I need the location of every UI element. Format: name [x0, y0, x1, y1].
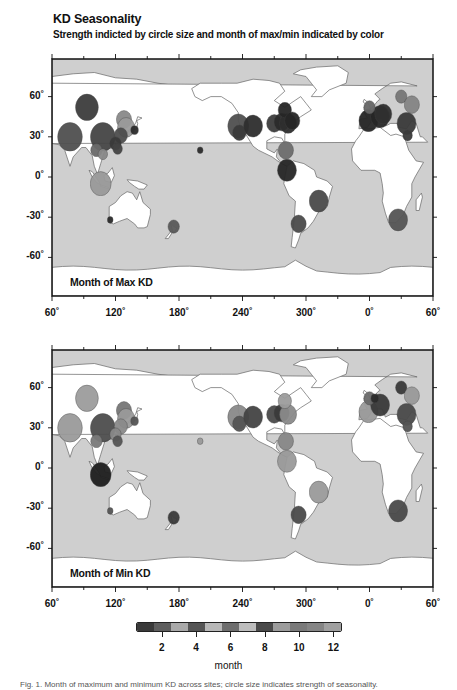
site-circle: [277, 450, 296, 472]
colorbar-tick-label: 4: [184, 642, 208, 653]
x-tick-label: 120˚: [96, 598, 136, 609]
colorbar-tick-label: 8: [253, 642, 277, 653]
colorbar-segment: [239, 623, 256, 631]
y-tick-label: -30˚: [14, 501, 44, 512]
figure-caption: Fig. 1. Month of maximum and minimum KD …: [20, 680, 378, 689]
colorbar-tick-label: 12: [321, 642, 345, 653]
y-tick-label: -60˚: [14, 541, 44, 552]
site-circle: [244, 406, 263, 428]
colorbar-segment: [273, 623, 290, 631]
y-tick-label: 60˚: [14, 381, 44, 392]
site-circle: [291, 506, 306, 524]
colorbar-segment: [307, 623, 324, 631]
site-circle: [404, 387, 419, 405]
colorbar-tick-label: 2: [150, 642, 174, 653]
colorbar-segment: [290, 623, 307, 631]
site-circle: [278, 432, 293, 450]
colorbar-tick-label: 10: [287, 642, 311, 653]
world-map: [0, 0, 457, 610]
site-circle: [309, 481, 328, 503]
colorbar-tick: [230, 632, 231, 637]
colorbar-tick-label: 6: [218, 642, 242, 653]
colorbar-segment: [188, 623, 205, 631]
x-tick-label: 180˚: [159, 598, 199, 609]
x-tick-label: 240˚: [223, 598, 263, 609]
x-tick-label: 300˚: [286, 598, 326, 609]
site-circle: [131, 417, 139, 426]
site-circle: [58, 414, 83, 443]
colorbar-segment: [137, 623, 154, 631]
site-circle: [107, 508, 113, 515]
site-circle: [168, 511, 179, 524]
site-circle: [197, 438, 203, 445]
colorbar-segment: [222, 623, 239, 631]
colorbar-segment: [324, 623, 341, 631]
colorbar-tick: [265, 632, 266, 637]
colorbar-segment: [154, 623, 171, 631]
site-circle: [90, 463, 111, 487]
x-tick-label: 60˚: [32, 598, 72, 609]
colorbar-segment: [205, 623, 222, 631]
panel-label: Month of Min KD: [70, 567, 150, 579]
y-tick-label: 30˚: [14, 421, 44, 432]
colorbar-title: month: [0, 660, 457, 671]
site-circle: [76, 385, 99, 411]
colorbar: [136, 622, 342, 632]
colorbar-tick: [196, 632, 197, 637]
x-tick-label: 60˚: [413, 598, 453, 609]
map-panel-min: 60˚30˚0˚-30˚-60˚60˚120˚180˚240˚300˚0˚60˚…: [0, 0, 457, 610]
colorbar-tick: [299, 632, 300, 637]
colorbar-tick: [333, 632, 334, 637]
colorbar-segment: [256, 623, 273, 631]
site-circle: [113, 436, 123, 447]
x-tick-label: 0˚: [350, 598, 390, 609]
colorbar-segment: [171, 623, 188, 631]
site-circle: [403, 421, 413, 432]
site-circle: [389, 500, 408, 522]
y-tick-label: 0˚: [14, 461, 44, 472]
site-circle: [91, 435, 102, 448]
site-circle: [278, 393, 291, 408]
colorbar-tick: [162, 632, 163, 637]
site-circle: [371, 394, 379, 403]
